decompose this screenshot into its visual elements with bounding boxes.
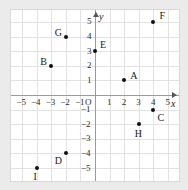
y-tick-label: 1 bbox=[87, 76, 92, 85]
point-label-a: A bbox=[130, 71, 137, 81]
y-tick-label: −3 bbox=[81, 134, 91, 143]
x-tick-label: 4 bbox=[151, 98, 156, 107]
point-label-g: G bbox=[55, 28, 62, 38]
point-label-h: H bbox=[135, 129, 142, 139]
y-tick-label: 4 bbox=[87, 32, 92, 41]
y-tick-label: 3 bbox=[87, 47, 92, 56]
data-point-b bbox=[49, 64, 53, 68]
y-tick-label: −2 bbox=[81, 120, 91, 129]
x-tick-label: 3 bbox=[136, 98, 141, 107]
data-point-a bbox=[122, 78, 126, 82]
coordinate-plane: xy O−5−4−3−2−11234554321−1−2−3−4−5 ABCDE… bbox=[10, 9, 180, 182]
y-tick-label: 2 bbox=[87, 61, 92, 70]
point-label-e: E bbox=[100, 40, 106, 50]
y-tick-label: −5 bbox=[81, 164, 91, 173]
x-tick-label: −3 bbox=[46, 98, 56, 107]
y-tick-label: 5 bbox=[87, 17, 92, 26]
point-label-b: B bbox=[40, 57, 47, 67]
x-axis-label: x bbox=[171, 99, 175, 109]
x-tick-label: −2 bbox=[60, 98, 70, 107]
y-axis-label: y bbox=[99, 12, 103, 22]
data-point-g bbox=[64, 35, 68, 39]
y-axis-line bbox=[95, 10, 96, 181]
data-point-h bbox=[137, 122, 141, 126]
x-tick-label: −5 bbox=[16, 98, 26, 107]
y-tick-label: −4 bbox=[81, 149, 91, 158]
point-label-d: D bbox=[55, 156, 62, 166]
point-label-f: F bbox=[159, 11, 165, 21]
y-tick-label: −1 bbox=[81, 105, 91, 114]
data-point-d bbox=[64, 151, 68, 155]
x-tick-label: 5 bbox=[166, 98, 171, 107]
x-tick-label: 2 bbox=[122, 98, 127, 107]
data-point-i bbox=[35, 166, 39, 170]
data-point-c bbox=[151, 108, 155, 112]
data-point-f bbox=[151, 20, 155, 24]
x-tick-label: 1 bbox=[107, 98, 112, 107]
point-label-i: I bbox=[34, 172, 37, 182]
data-point-e bbox=[93, 49, 97, 53]
x-tick-label: −4 bbox=[31, 98, 41, 107]
point-label-c: C bbox=[157, 113, 164, 123]
